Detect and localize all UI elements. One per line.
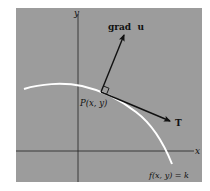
tangent-label: T xyxy=(175,118,182,128)
level-curve-label: f(x, y) = k xyxy=(148,171,189,180)
gradient-diagram: y x grad u T P(x, y) f(x, y) = k xyxy=(0,0,210,191)
gradient-label: grad u xyxy=(108,22,144,32)
y-axis-label: y xyxy=(73,8,80,18)
point-label: P(x, y) xyxy=(79,98,107,108)
x-axis-label: x xyxy=(195,146,200,156)
